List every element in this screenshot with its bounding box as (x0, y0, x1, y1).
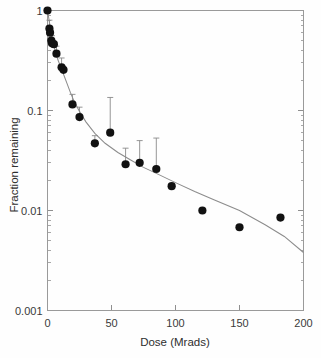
x-axis-title: Dose (Mrads) (140, 336, 210, 348)
data-point-marker (59, 66, 67, 74)
data-point-marker (152, 165, 160, 173)
data-points (43, 6, 284, 231)
data-point-marker (52, 50, 60, 58)
data-point-marker (121, 160, 129, 168)
data-point-marker (91, 139, 99, 147)
y-axis-title: Fraction remaining (8, 117, 20, 212)
y-axis-minor-ticks (48, 15, 304, 280)
x-tick-label: 50 (105, 317, 117, 329)
figure-canvas: 050100150200 10.10.010.001 Dose (Mrads) … (0, 0, 321, 358)
x-tick-label: 0 (44, 317, 50, 329)
y-tick-label: 0.1 (27, 105, 42, 117)
data-point-marker (43, 6, 51, 14)
x-axis-major-ticks (48, 305, 304, 311)
data-point-marker (235, 223, 243, 231)
x-tick-label: 100 (166, 317, 184, 329)
x-tick-label: 200 (294, 317, 312, 329)
data-point-marker (198, 206, 206, 214)
fit-curve-line (48, 11, 304, 253)
survival-curve-chart: 050100150200 10.10.010.001 Dose (Mrads) … (0, 0, 321, 358)
data-point-marker (75, 113, 83, 121)
data-point-marker (106, 129, 114, 137)
y-tick-label: 1 (36, 5, 42, 17)
data-point-marker (46, 29, 54, 37)
data-point-marker (276, 213, 284, 221)
y-tick-label: 0.01 (21, 205, 42, 217)
data-point-marker (168, 182, 176, 190)
data-point-marker (136, 159, 144, 167)
data-point-marker (68, 100, 76, 108)
y-axis-major-ticks (48, 11, 304, 311)
data-point-marker (50, 40, 58, 48)
error-bars (46, 20, 159, 169)
y-tick-label: 0.001 (15, 305, 43, 317)
x-tick-label: 150 (230, 317, 248, 329)
x-tick-labels: 050100150200 (44, 317, 312, 329)
